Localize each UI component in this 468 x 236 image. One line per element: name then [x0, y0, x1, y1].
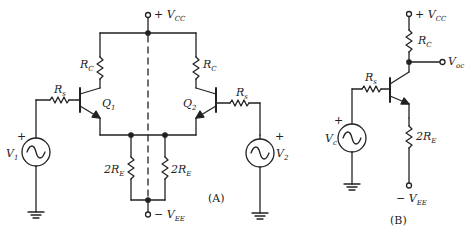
re-right-label: 2RE: [171, 164, 191, 178]
vee-terminal-a: [146, 200, 151, 217]
re-resistor-b: [406, 118, 412, 188]
rc-resistor-b: [406, 30, 412, 72]
q1-transistor: [80, 88, 100, 135]
caption-b: (B): [390, 215, 407, 226]
rc-left-label: RC: [80, 59, 94, 73]
v1-polarity: +: [17, 131, 26, 142]
rc-label-b: RC: [418, 35, 432, 49]
vee-label-a: − VEE: [154, 209, 185, 223]
v1-source: [22, 100, 50, 212]
re-right-resistor: [162, 135, 168, 200]
vee-label-b: − VEE: [396, 193, 427, 207]
rc-right-resistor: [193, 33, 199, 88]
ground-icon: [252, 213, 268, 219]
caption-a: (A): [208, 193, 225, 204]
rs-resistor-b: [352, 86, 390, 92]
rs-left-label: Rs: [54, 84, 66, 98]
rs-right-resistor: [216, 100, 260, 135]
voc-terminal: [409, 60, 445, 65]
vc-label: Vc: [325, 133, 337, 147]
v2-source: [246, 135, 274, 213]
re-left-label: 2RE: [104, 164, 124, 178]
voc-label: Voc: [448, 56, 464, 70]
q2-label: Q2: [183, 98, 197, 112]
vcc-label-b: + VCC: [415, 9, 446, 23]
re-label-b: 2RE: [416, 131, 436, 145]
v2-polarity: +: [275, 131, 284, 142]
v2-label: V2: [276, 148, 288, 162]
vc-source: [338, 89, 366, 184]
ground-icon: [344, 184, 360, 190]
rc-left-resistor: [97, 33, 103, 88]
q1-label: Q1: [102, 98, 116, 112]
rs-label-b: Rs: [365, 72, 377, 86]
v1-label: V1: [6, 148, 18, 162]
re-left-resistor: [128, 135, 134, 200]
rc-right-label: RC: [203, 59, 217, 73]
q-transistor-b: [390, 72, 409, 118]
q2-transistor: [196, 88, 216, 135]
differential-amplifier-diagram: + VCC RC RC Rs Rs Q1 Q2 2RE 2RE − VEE (A…: [0, 0, 468, 236]
vcc-label-a: + VCC: [154, 9, 185, 23]
ground-icon: [28, 212, 44, 218]
vcc-terminal-b: [407, 12, 412, 31]
rs-right-label: Rs: [236, 87, 248, 101]
vc-polarity: +: [334, 115, 343, 126]
vcc-terminal-a: [146, 13, 151, 36]
